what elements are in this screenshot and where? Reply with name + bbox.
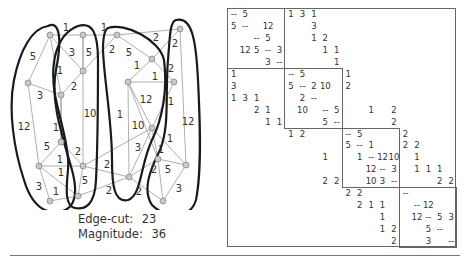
graph-node xyxy=(126,174,132,180)
matrix-cell: 3 xyxy=(423,236,434,248)
edge-weight: 3 xyxy=(36,181,42,192)
matrix-cell: 1 xyxy=(262,105,273,117)
matrix-cell: 12 xyxy=(377,152,388,164)
matrix-cell: 2 xyxy=(411,140,422,152)
matrix-cell: 2 xyxy=(354,200,365,212)
matrix-cell: 1 xyxy=(228,69,239,81)
matrix-cell: 2 xyxy=(446,176,457,188)
edge-weight: 10 xyxy=(132,120,145,131)
edge-weight: 12 xyxy=(18,121,31,132)
matrix-cell: 3 xyxy=(262,57,273,69)
edge-weight: 1 xyxy=(57,65,63,76)
partitioned-graph: 1125153252121321012111012121521153122311… xyxy=(0,0,215,210)
edge-weight: 5 xyxy=(44,141,50,152)
edge-weight: 2 xyxy=(136,186,142,197)
matrix-cell: 2 xyxy=(297,129,308,141)
graph-edge xyxy=(158,159,163,201)
matrix-cell: -- xyxy=(365,152,376,164)
matrix-cell: 5 xyxy=(343,140,354,152)
bottom-divider xyxy=(10,255,460,256)
edge-weight: 2 xyxy=(109,44,115,55)
edge-cut-row: Edge-cut: 23 xyxy=(78,212,166,227)
matrix-cell: 1 xyxy=(365,140,376,152)
edge-weight: 1 xyxy=(57,154,63,165)
matrix-cell: 3 xyxy=(308,21,319,33)
matrix-cell: -- xyxy=(228,9,239,21)
matrix-cell: 3 xyxy=(377,176,388,188)
matrix-cell: -- xyxy=(308,93,319,105)
edge-weight: 5 xyxy=(165,164,171,175)
graph-node xyxy=(183,162,189,168)
partition-outline xyxy=(12,25,76,210)
graph-node xyxy=(177,26,183,32)
matrix-cell: 1 xyxy=(274,117,285,129)
matrix-cell: 12 xyxy=(411,212,422,224)
edge-weight: 5 xyxy=(30,51,36,62)
graph-node xyxy=(80,163,86,169)
edge-weight: 10 xyxy=(84,108,97,119)
matrix-cell: 5 xyxy=(239,9,250,21)
matrix-cell: 1 xyxy=(377,212,388,224)
matrix-cell: 1 xyxy=(377,224,388,236)
matrix-cell: -- xyxy=(423,212,434,224)
edge-weight: 12 xyxy=(140,94,153,105)
matrix-cell: -- xyxy=(251,33,262,45)
matrix-cell: 3 xyxy=(274,45,285,57)
matrix-cell: 2 xyxy=(343,188,354,200)
graph-edge xyxy=(128,82,129,177)
matrix-cell: 2 xyxy=(388,105,399,117)
matrix-cell: 10 xyxy=(388,152,399,164)
edge-weight: 1 xyxy=(158,144,164,155)
edge-weight: 3 xyxy=(69,47,75,58)
graph-node xyxy=(75,193,81,199)
matrix-cell: 5 xyxy=(228,21,239,33)
matrix-cell: 1 xyxy=(354,152,365,164)
matrix-cell: 5 xyxy=(434,212,445,224)
edge-weight: 1 xyxy=(53,186,59,197)
matrix-cell: 1 xyxy=(251,93,262,105)
matrix-cell: 1 xyxy=(411,152,422,164)
matrix-cell: 2 xyxy=(331,176,342,188)
edge-weight: 1 xyxy=(168,96,174,107)
matrix-cell: 3 xyxy=(228,81,239,93)
edge-weight: 5 xyxy=(82,175,88,186)
graph-node xyxy=(80,32,86,38)
matrix-cell: 10 xyxy=(320,81,331,93)
adjacency-matrix: --51315--123--512125--3113--11--5135--21… xyxy=(227,8,456,247)
magnitude-label: Magnitude: xyxy=(78,227,143,242)
matrix-cell: 1 xyxy=(308,9,319,21)
matrix-cell: -- xyxy=(320,105,331,117)
matrix-cell: 1 xyxy=(434,164,445,176)
matrix-cell: 12 xyxy=(365,164,376,176)
matrix-cell: -- xyxy=(274,57,285,69)
matrix-cell: 2 xyxy=(400,129,411,141)
matrix-cell: 3 xyxy=(388,164,399,176)
matrix-cell: 2 xyxy=(388,236,399,248)
matrix-cell: 5 xyxy=(354,129,365,141)
edge-cut-label: Edge-cut: xyxy=(78,212,133,227)
edge-weight: 2 xyxy=(153,32,159,43)
matrix-cell: -- xyxy=(285,69,296,81)
matrix-cell: 5 xyxy=(285,81,296,93)
matrix-cell: -- xyxy=(446,236,457,248)
matrix-cell: 2 xyxy=(434,176,445,188)
graph-node xyxy=(47,198,53,204)
edge-weight: 2 xyxy=(151,164,157,175)
matrix-cell: 1 xyxy=(365,200,376,212)
matrix-cell: 1 xyxy=(262,117,273,129)
edge-weight: 1 xyxy=(117,109,123,120)
matrix-cell: -- xyxy=(354,140,365,152)
edge-weight: 3 xyxy=(135,142,141,153)
matrix-cell: 2 xyxy=(388,224,399,236)
graph-node xyxy=(155,156,161,162)
matrix-cell: 3 xyxy=(297,9,308,21)
matrix-cell: 1 xyxy=(308,33,319,45)
graph-node xyxy=(160,198,166,204)
graph-node xyxy=(36,163,42,169)
edge-weight: 12 xyxy=(182,116,195,127)
edge-weight: 1 xyxy=(53,122,59,133)
matrix-cell: -- xyxy=(434,224,445,236)
matrix-cell: -- xyxy=(239,21,250,33)
graph-node xyxy=(149,125,155,131)
graph-edge xyxy=(180,29,186,165)
